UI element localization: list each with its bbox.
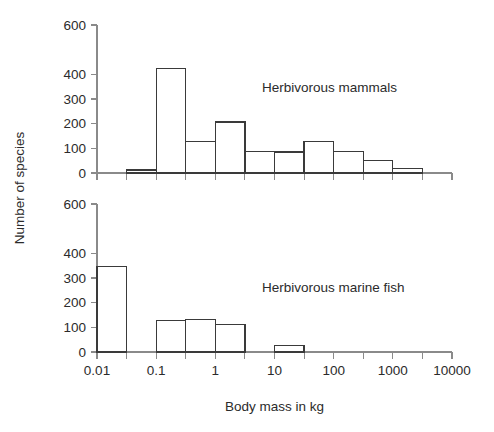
x-axis-title: Body mass in kg xyxy=(225,399,324,414)
y-tick-label: 600 xyxy=(63,197,86,212)
histogram-bar xyxy=(334,151,364,173)
histogram-bar xyxy=(245,151,275,173)
histogram-bar xyxy=(215,122,245,173)
histogram-bar xyxy=(186,142,216,173)
histogram-chart: 0100200300400600Herbivorous mammals 0100… xyxy=(0,0,494,432)
histogram-bar xyxy=(156,68,186,173)
y-tick-label: 300 xyxy=(63,271,86,286)
histogram-bar xyxy=(186,319,216,352)
x-tick-label: 1000 xyxy=(378,363,408,378)
x-tick-label: 100 xyxy=(322,363,345,378)
x-tick-label: 10000 xyxy=(433,363,471,378)
y-tick-label: 200 xyxy=(63,295,86,310)
panel-annotation-label: Herbivorous mammals xyxy=(262,80,397,95)
y-tick-label: 400 xyxy=(63,246,86,261)
y-tick-label: 300 xyxy=(63,92,86,107)
y-tick-label: 200 xyxy=(63,116,86,131)
y-tick-label: 100 xyxy=(63,320,86,335)
y-axis-title: Number of species xyxy=(12,131,27,244)
x-tick-label: 10 xyxy=(267,363,282,378)
histogram-bar xyxy=(97,266,127,352)
y-tick-label: 0 xyxy=(78,345,86,360)
x-tick-label: 0.01 xyxy=(84,363,110,378)
histogram-bar xyxy=(127,170,157,173)
y-tick-label: 0 xyxy=(78,166,86,181)
x-tick-label: 0.1 xyxy=(147,363,166,378)
panel-herbivorous-marine-fish: 0100200300400600Herbivorous marine fish xyxy=(63,197,452,360)
histogram-bar xyxy=(215,324,245,352)
histogram-bar xyxy=(363,161,393,173)
y-tick-label: 600 xyxy=(63,18,86,33)
panel-herbivorous-mammals: 0100200300400600Herbivorous mammals xyxy=(63,18,452,181)
figure-container: 0100200300400600Herbivorous mammals 0100… xyxy=(0,0,494,432)
histogram-bar xyxy=(275,152,305,173)
histogram-bar xyxy=(304,142,334,173)
y-tick-label: 400 xyxy=(63,67,86,82)
panel-annotation-label: Herbivorous marine fish xyxy=(262,280,405,295)
histogram-bar xyxy=(275,345,305,352)
histogram-bar xyxy=(393,169,423,173)
y-tick-label: 100 xyxy=(63,141,86,156)
histogram-bar xyxy=(156,320,186,352)
x-tick-label: 1 xyxy=(212,363,220,378)
